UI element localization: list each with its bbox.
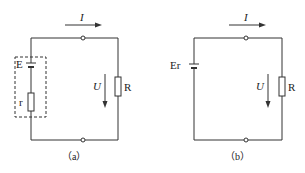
voltage-arrow-head-b [266,101,271,108]
source-label-b: Er [170,60,180,71]
voltage-label-a: U [93,81,101,92]
internal-resistance-label-a: r [19,97,23,108]
circuit-b [189,23,285,143]
current-arrow-head-a [95,23,102,28]
resistor-label-a: R [124,82,131,93]
caption-b: （b） [225,152,250,162]
voltage-label-b: U [256,81,264,92]
resistor-R-b [279,77,285,96]
current-label-a: I [80,12,84,23]
terminal-bottom-b [244,138,248,142]
terminal-top-a [81,36,85,40]
terminal-top-b [244,36,248,40]
resistor-label-b: R [288,82,295,93]
current-arrow-head-b [259,23,266,28]
terminal-bottom-a [81,138,85,142]
current-label-b: I [244,12,248,23]
voltage-arrow-head-a [103,101,108,108]
emf-label-a: E [16,59,23,70]
caption-a: （a） [62,152,86,162]
circuit-a [15,23,121,143]
resistor-r-a [28,93,34,111]
resistor-R-a [115,77,121,96]
